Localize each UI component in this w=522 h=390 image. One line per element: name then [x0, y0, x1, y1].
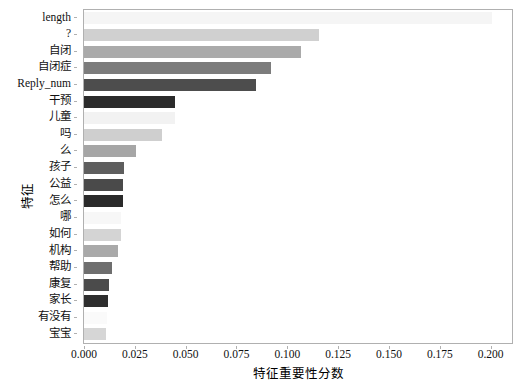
y-tick-mark: [74, 34, 77, 35]
y-tick-label-么: 么: [0, 142, 77, 159]
bar-row: [84, 326, 512, 343]
y-tick-label-text: 自闭: [49, 45, 71, 57]
plot-area: [83, 9, 513, 344]
y-tick-label-text: 如何: [49, 228, 71, 240]
y-tick-mark: [74, 250, 77, 251]
y-tick-label-哪: 哪: [0, 209, 77, 226]
y-tick-label-text: 机构: [49, 245, 71, 257]
y-tick-mark: [74, 300, 77, 301]
y-tick-label-?: ?: [0, 26, 77, 43]
y-tick-mark: [74, 317, 77, 318]
bar-row: [84, 93, 512, 110]
bar-row: [84, 193, 512, 210]
y-tick-label-text: 哪: [60, 211, 71, 223]
y-tick-label-自闭症: 自闭症: [0, 59, 77, 76]
bar-Reply_num: [84, 79, 256, 91]
y-tick-label-公益: 公益: [0, 175, 77, 192]
x-tick-label-0.200: 0.200: [478, 349, 504, 361]
y-tick-label-如何: 如何: [0, 225, 77, 242]
x-tick-label-0.125: 0.125: [325, 349, 351, 361]
bar-row: [84, 143, 512, 160]
bar-row: [84, 176, 512, 193]
feature-importance-chart: 特征 length?自闭自闭症Reply_num干预儿童吗么孩子公益怎么哪如何机…: [0, 0, 522, 390]
x-axis-title: 特征重要性分数: [83, 363, 513, 382]
bar-孩子: [84, 162, 124, 174]
bar-row: [84, 126, 512, 143]
y-tick-mark: [74, 84, 77, 85]
y-tick-label-机构: 机构: [0, 242, 77, 259]
y-tick-label-text: 宝宝: [49, 328, 71, 340]
bar-row: [84, 60, 512, 77]
y-tick-label-家长: 家长: [0, 292, 77, 309]
y-tick-mark: [74, 217, 77, 218]
bar-row: [84, 10, 512, 27]
y-tick-label-text: Reply_num: [17, 78, 71, 90]
bar-帮助: [84, 262, 112, 274]
y-tick-mark: [74, 51, 77, 52]
bar-哪: [84, 212, 121, 224]
y-tick-label-自闭: 自闭: [0, 42, 77, 59]
bar-row: [84, 310, 512, 327]
y-tick-label-text: length: [42, 12, 71, 24]
y-tick-mark: [74, 17, 77, 18]
x-tick-label-0.075: 0.075: [224, 349, 250, 361]
y-tick-label-text: 怎么: [49, 195, 71, 207]
bar-row: [84, 276, 512, 293]
x-tick-label-0.150: 0.150: [376, 349, 402, 361]
bar-?: [84, 29, 319, 41]
bar-如何: [84, 229, 121, 241]
y-tick-mark: [74, 184, 77, 185]
y-tick-mark: [74, 333, 77, 334]
x-tick-label-0.100: 0.100: [274, 349, 300, 361]
y-tick-label-text: 么: [60, 145, 71, 157]
y-tick-mark: [74, 101, 77, 102]
y-tick-label-孩子: 孩子: [0, 159, 77, 176]
x-tick-label-0.025: 0.025: [122, 349, 148, 361]
y-tick-label-length: length: [0, 9, 77, 26]
bar-儿童: [84, 112, 175, 124]
y-tick-label-康复: 康复: [0, 275, 77, 292]
y-tick-mark: [74, 200, 77, 201]
y-tick-mark: [74, 117, 77, 118]
bar-row: [84, 160, 512, 177]
bar-公益: [84, 179, 123, 191]
bar-康复: [84, 279, 109, 291]
y-tick-label-text: 有没有: [38, 311, 71, 323]
y-tick-mark: [74, 234, 77, 235]
y-tick-label-text: 孩子: [49, 161, 71, 173]
bar-家长: [84, 295, 108, 307]
y-tick-label-text: 家长: [49, 294, 71, 306]
y-tick-mark: [74, 150, 77, 151]
y-tick-label-有没有: 有没有: [0, 309, 77, 326]
y-tick-label-帮助: 帮助: [0, 259, 77, 276]
bar-自闭: [84, 46, 301, 58]
bar-机构: [84, 245, 118, 257]
x-axis-tick-labels: 0.0000.0250.0500.0750.1000.1250.1500.175…: [83, 346, 513, 362]
bar-row: [84, 293, 512, 310]
x-tick-label-0.000: 0.000: [71, 349, 97, 361]
y-tick-label-text: 吗: [60, 128, 71, 140]
y-tick-mark: [74, 284, 77, 285]
bar-干预: [84, 96, 175, 108]
bar-row: [84, 110, 512, 127]
y-tick-label-Reply_num: Reply_num: [0, 76, 77, 93]
bar-length: [84, 12, 492, 24]
bar-row: [84, 27, 512, 44]
y-tick-label-干预: 干预: [0, 92, 77, 109]
x-tick-label-0.050: 0.050: [173, 349, 199, 361]
bar-row: [84, 77, 512, 94]
y-tick-label-text: 干预: [49, 95, 71, 107]
y-tick-label-怎么: 怎么: [0, 192, 77, 209]
y-tick-label-text: 康复: [49, 278, 71, 290]
bar-row: [84, 260, 512, 277]
y-tick-label-吗: 吗: [0, 125, 77, 142]
y-tick-label-text: ?: [66, 28, 71, 40]
bar-row: [84, 43, 512, 60]
bar-怎么: [84, 195, 123, 207]
y-tick-label-text: 自闭症: [38, 61, 71, 73]
bar-有没有: [84, 312, 107, 324]
bar-row: [84, 226, 512, 243]
y-tick-mark: [74, 167, 77, 168]
y-tick-label-text: 帮助: [49, 261, 71, 273]
bar-么: [84, 145, 136, 157]
